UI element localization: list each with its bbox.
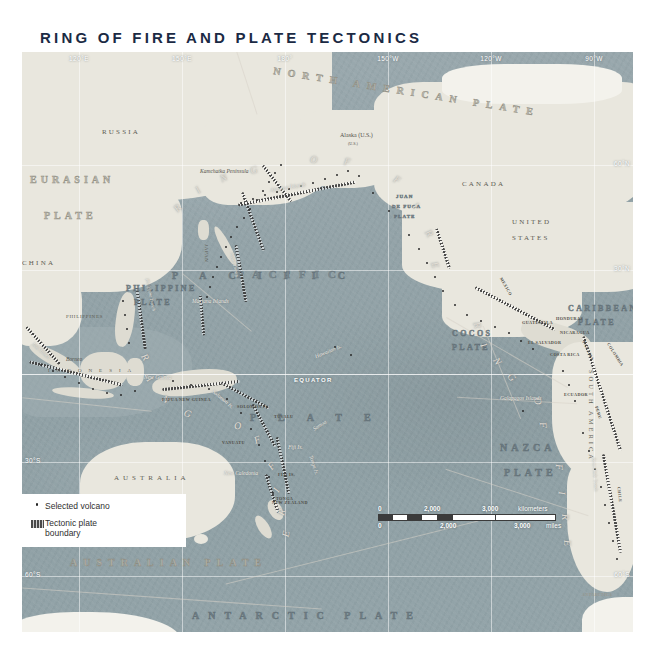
- legend-label-plate-boundary-line1: Tectonic plate: [45, 518, 97, 528]
- scale-mi-mid: 2,000: [440, 522, 456, 529]
- parallel-60s: [22, 576, 633, 577]
- plate-boundary-swatch-icon: [29, 518, 45, 528]
- legend-label-volcano: Selected volcano: [45, 501, 110, 512]
- lat-label-right-60s: 60°S: [614, 571, 630, 578]
- legend-item-plate-boundary: Tectonic plateboundary: [29, 518, 177, 539]
- scale-km-mid: 2,000: [424, 505, 440, 512]
- title-bar: RING OF FIRE AND PLATE TECTONICS: [22, 26, 633, 52]
- legend-item-volcano: Selected volcano: [29, 501, 177, 512]
- lon-label-90w: 90°W: [585, 55, 603, 62]
- scale-km-end: 3,000: [482, 505, 498, 512]
- volcano-dot-icon: [29, 501, 45, 506]
- lon-label-120e: 120°E: [69, 55, 89, 62]
- lat-label-right-60n: 60°N: [614, 160, 630, 167]
- lon-label-180: 180°: [277, 55, 292, 62]
- legend-label-plate-boundary: Tectonic plateboundary: [45, 518, 97, 539]
- parallel-equator: [22, 374, 633, 375]
- legend-label-plate-boundary-line2: boundary: [45, 528, 80, 538]
- scale-mi-labels: 0 2,000 3,000 miles: [378, 522, 568, 531]
- scale-bar: 0 2,000 3,000 kilometers 0 2,000 3,000 m…: [378, 505, 568, 531]
- scale-km-zero: 0: [378, 505, 382, 512]
- parallel-60n: [22, 165, 633, 166]
- land-arctic-islands: [442, 64, 622, 104]
- equator-label: EQUATOR: [294, 377, 333, 383]
- map-legend: Selected volcano Tectonic plateboundary: [20, 494, 186, 547]
- scale-km-labels: 0 2,000 3,000 kilometers: [378, 505, 568, 514]
- page-title: RING OF FIRE AND PLATE TECTONICS: [40, 29, 422, 46]
- lon-label-150w: 150°W: [377, 55, 399, 62]
- parallel-30s: [22, 462, 633, 463]
- land-sulawesi: [126, 358, 144, 386]
- lon-label-150e: 150°E: [172, 55, 192, 62]
- scale-bar-graphic: [378, 514, 556, 521]
- lat-label-left-30s: 30°S: [25, 457, 41, 464]
- lat-label-right-30n: 30°N: [614, 265, 630, 272]
- parallel-30n: [22, 270, 633, 271]
- meridian-180: [285, 52, 286, 632]
- land-korea: [198, 220, 209, 240]
- scale-mi-unit: miles: [546, 522, 561, 529]
- lon-label-120w: 120°W: [480, 55, 502, 62]
- map-page: 120°E 150°E 180° 150°W 120°W 90°W 30°S 6…: [0, 0, 653, 651]
- scale-km-unit: kilometers: [518, 505, 548, 512]
- lat-label-left-60s: 60°S: [25, 571, 41, 578]
- scale-mi-end: 3,000: [514, 522, 530, 529]
- meridian-150w: [388, 52, 389, 632]
- meridian-90w: [594, 52, 595, 632]
- scale-mi-zero: 0: [378, 522, 382, 529]
- land-tasmania: [194, 534, 208, 544]
